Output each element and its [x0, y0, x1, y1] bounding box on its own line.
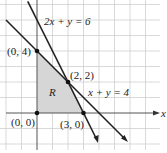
point-0-0: [35, 111, 40, 116]
feasible-region-diagram: 2x + y = 6 x + y = 4 R (0, 4) (2, 2) (0,…: [0, 0, 167, 153]
label-point-2-2: (2, 2): [70, 69, 94, 82]
point-0-4: [35, 49, 40, 54]
x-axis-arrow-icon: [153, 111, 160, 116]
label-point-3-0: (3, 0): [60, 118, 84, 131]
label-x-axis: x: [160, 107, 166, 119]
label-line-2x-plus-y-6: 2x + y = 6: [44, 15, 91, 27]
label-line-x-plus-y-4: x + y = 4: [87, 86, 130, 98]
label-point-0-0: (0, 0): [11, 116, 35, 129]
point-3-0: [81, 111, 86, 116]
label-point-0-4: (0, 4): [7, 45, 31, 58]
label-region-r: R: [48, 86, 56, 98]
